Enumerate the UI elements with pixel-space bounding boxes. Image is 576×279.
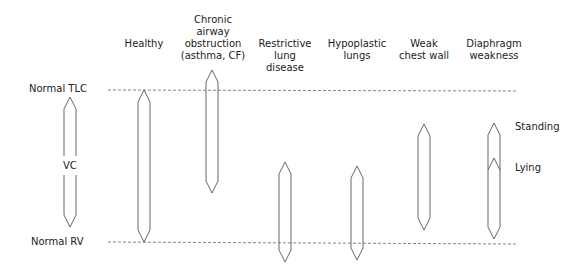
standing-label: Standing bbox=[515, 121, 560, 133]
normal-rv-label: Normal RV bbox=[31, 236, 84, 248]
healthy-vc-arrow bbox=[138, 90, 150, 242]
restrictive-vc-arrow bbox=[279, 162, 291, 262]
column-label-restrictive: Restrictive lung disease bbox=[250, 38, 320, 74]
diaphragm-lying-vc-tip bbox=[488, 158, 500, 170]
column-label-healthy: Healthy bbox=[114, 38, 174, 50]
weak-chest-vc-arrow bbox=[418, 124, 430, 230]
vc-label: VC bbox=[63, 160, 77, 172]
chronic-vc-arrow bbox=[206, 70, 218, 193]
normal-tlc-line bbox=[108, 90, 518, 91]
normal-rv-line bbox=[108, 242, 518, 244]
hypoplastic-vc-arrow bbox=[351, 166, 363, 260]
vc-legend-arrow-top bbox=[64, 97, 76, 156]
column-label-diaphragm: Diaphragm weakness bbox=[459, 38, 529, 62]
column-label-chronic: Chronic airway obstruction (asthma, CF) bbox=[177, 14, 249, 62]
lying-label: Lying bbox=[515, 162, 541, 174]
vc-legend-arrow-bottom bbox=[64, 175, 76, 227]
normal-tlc-label: Normal TLC bbox=[29, 83, 87, 95]
column-label-hypoplastic: Hypoplastic lungs bbox=[322, 38, 392, 62]
diaphragm-standing-vc-arrow bbox=[488, 123, 500, 239]
column-label-weak-chest-wall: Weak chest wall bbox=[389, 38, 459, 62]
